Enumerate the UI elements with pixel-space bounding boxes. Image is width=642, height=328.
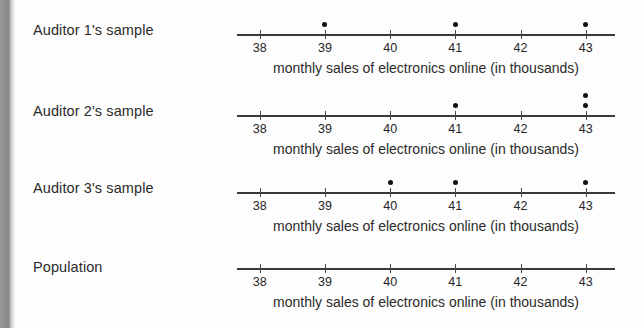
- axis-tick-label: 40: [375, 199, 405, 213]
- axis-tick: [586, 188, 587, 197]
- axis-tick: [325, 264, 326, 273]
- axis-tick: [260, 188, 261, 197]
- axis-tick-label: 42: [506, 275, 536, 289]
- axis-tick: [521, 264, 522, 273]
- axis-line: [237, 192, 615, 194]
- axis-tick: [521, 188, 522, 197]
- panel-label: Auditor 1's sample: [33, 22, 154, 38]
- axis-tick-label: 41: [440, 199, 470, 213]
- dotplot-figure: Auditor 1's sample383940414243monthly sa…: [0, 0, 642, 328]
- axis-tick: [586, 30, 587, 39]
- axis-tick-label: 39: [310, 275, 340, 289]
- axis-tick: [521, 111, 522, 120]
- axis-tick: [455, 188, 456, 197]
- axis-caption: monthly sales of electronics online (in …: [237, 60, 615, 76]
- axis-tick: [325, 30, 326, 39]
- axis-tick: [390, 111, 391, 120]
- data-dot: [388, 180, 393, 185]
- axis-caption: monthly sales of electronics online (in …: [237, 141, 615, 157]
- axis-tick-label: 41: [440, 275, 470, 289]
- axis-tick: [390, 30, 391, 39]
- axis-tick-label: 40: [375, 122, 405, 136]
- axis-tick-label: 43: [571, 41, 601, 55]
- axis-tick: [260, 264, 261, 273]
- axis-tick: [390, 188, 391, 197]
- axis-tick-label: 43: [571, 275, 601, 289]
- axis-tick: [260, 111, 261, 120]
- data-dot: [583, 93, 588, 98]
- data-dot: [583, 103, 588, 108]
- axis-tick-label: 38: [245, 199, 275, 213]
- data-dot: [453, 180, 458, 185]
- panel-label: Auditor 3's sample: [33, 180, 154, 196]
- axis-tick: [325, 188, 326, 197]
- axis-tick-label: 39: [310, 199, 340, 213]
- axis-tick-label: 38: [245, 41, 275, 55]
- axis-tick-label: 40: [375, 275, 405, 289]
- axis-tick: [586, 264, 587, 273]
- axis-line: [237, 268, 615, 270]
- panel-label: Auditor 2's sample: [33, 103, 154, 119]
- panel-label: Population: [33, 259, 103, 275]
- axis-tick: [455, 264, 456, 273]
- data-dot: [453, 103, 458, 108]
- axis-tick: [586, 111, 587, 120]
- axis-tick: [390, 264, 391, 273]
- data-dot: [322, 22, 327, 27]
- axis-tick: [325, 111, 326, 120]
- axis-tick: [455, 111, 456, 120]
- axis-line: [237, 34, 615, 36]
- axis-tick-label: 41: [440, 41, 470, 55]
- data-dot: [583, 22, 588, 27]
- axis-tick-label: 43: [571, 199, 601, 213]
- axis-tick-label: 42: [506, 41, 536, 55]
- axis-tick-label: 42: [506, 122, 536, 136]
- axis-tick: [260, 30, 261, 39]
- axis-tick-label: 40: [375, 41, 405, 55]
- axis-tick-label: 38: [245, 275, 275, 289]
- axis-tick-label: 43: [571, 122, 601, 136]
- data-dot: [453, 22, 458, 27]
- page-spine-shadow: [0, 0, 16, 328]
- axis-caption: monthly sales of electronics online (in …: [237, 218, 615, 234]
- axis-tick-label: 41: [440, 122, 470, 136]
- axis-tick: [521, 30, 522, 39]
- data-dot: [583, 180, 588, 185]
- axis-caption: monthly sales of electronics online (in …: [237, 294, 615, 310]
- axis-tick-label: 39: [310, 41, 340, 55]
- axis-tick-label: 38: [245, 122, 275, 136]
- axis-tick-label: 39: [310, 122, 340, 136]
- axis-tick-label: 42: [506, 199, 536, 213]
- axis-line: [237, 115, 615, 117]
- axis-tick: [455, 30, 456, 39]
